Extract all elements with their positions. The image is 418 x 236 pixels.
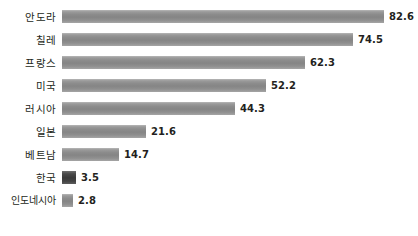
bar-row: 안도라 82.6 [0, 5, 418, 28]
category-label: 미국 [0, 80, 56, 92]
bar-row: 프랑스 62.3 [0, 51, 418, 74]
bar-chart: 안도라 82.6 칠레 74.5 프랑스 62.3 미국 52. [0, 0, 418, 236]
bar [62, 56, 305, 69]
bar-row: 인도네시아 2.8 [0, 189, 418, 212]
bar-row: 미국 52.2 [0, 74, 418, 97]
category-label: 한국 [0, 172, 56, 184]
category-label: 러시아 [0, 103, 56, 115]
bar-highlighted [62, 171, 76, 184]
bar-row: 러시아 44.3 [0, 97, 418, 120]
bar-wrapper: 14.7 [62, 143, 149, 166]
value-label: 3.5 [81, 172, 99, 183]
category-label: 칠레 [0, 34, 56, 46]
category-label: 일본 [0, 126, 56, 138]
category-label: 인도네시아 [0, 195, 56, 207]
bar [62, 125, 146, 138]
value-label: 74.5 [358, 34, 383, 45]
bar [62, 148, 119, 161]
bar [62, 10, 384, 23]
bar-row: 한국 3.5 [0, 166, 418, 189]
category-label: 프랑스 [0, 57, 56, 69]
plot-area: 안도라 82.6 칠레 74.5 프랑스 62.3 미국 52. [0, 0, 418, 212]
bar-wrapper: 74.5 [62, 28, 383, 51]
bar-wrapper: 52.2 [62, 74, 296, 97]
category-label: 안도라 [0, 11, 56, 23]
bar-wrapper: 82.6 [62, 5, 414, 28]
value-label: 2.8 [78, 195, 96, 206]
bar-wrapper: 44.3 [62, 97, 265, 120]
bar-row: 베트남 14.7 [0, 143, 418, 166]
bar-wrapper: 2.8 [62, 189, 96, 212]
value-label: 82.6 [389, 11, 414, 22]
bar-row: 일본 21.6 [0, 120, 418, 143]
bar [62, 79, 266, 92]
category-label: 베트남 [0, 149, 56, 161]
value-label: 21.6 [151, 126, 176, 137]
bar [62, 33, 353, 46]
bar-row: 칠레 74.5 [0, 28, 418, 51]
bar-wrapper: 21.6 [62, 120, 176, 143]
value-label: 44.3 [240, 103, 265, 114]
value-label: 52.2 [271, 80, 296, 91]
bar-wrapper: 62.3 [62, 51, 335, 74]
bar-wrapper: 3.5 [62, 166, 99, 189]
bar [62, 194, 73, 207]
value-label: 14.7 [124, 149, 149, 160]
bar [62, 102, 235, 115]
value-label: 62.3 [310, 57, 335, 68]
